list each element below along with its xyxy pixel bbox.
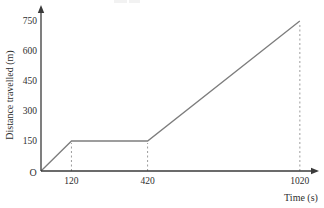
x-tick-label: 1020 — [290, 176, 309, 186]
origin-label: O — [29, 167, 36, 178]
x-axis-title: Time (s) — [284, 192, 318, 203]
y-tick-label: 450 — [23, 76, 38, 86]
plot-area: 1204201020150300450600750 — [0, 0, 324, 208]
x-tick-label: 420 — [140, 176, 155, 186]
y-axis-title: Distance travelled (m) — [4, 50, 15, 139]
y-tick-label: 750 — [23, 16, 38, 26]
distance-time-graph: 1204201020150300450600750 Distance trave… — [0, 0, 324, 208]
x-axis-arrow-icon — [311, 168, 319, 174]
y-tick-label: 600 — [23, 46, 38, 56]
series-line-distance-time — [41, 21, 300, 171]
y-axis-arrow-icon — [38, 5, 44, 13]
y-tick-label: 300 — [23, 106, 38, 116]
x-tick-label: 120 — [64, 176, 79, 186]
y-tick-label: 150 — [23, 136, 38, 146]
